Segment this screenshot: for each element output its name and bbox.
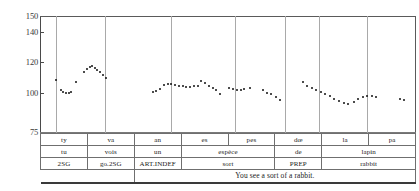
annotation-cell: va	[87, 134, 134, 146]
y-tick-label-150: 150	[4, 12, 38, 21]
annotation-cell: lapin	[322, 146, 416, 158]
segment-boundary-line	[56, 16, 57, 133]
f0-data-point	[347, 103, 349, 105]
f0-data-point	[75, 81, 77, 83]
gloss-tier: 2SGgo.2SGART.INDEFsortPREPrabbit	[41, 158, 416, 170]
annotation-cell: dœ	[275, 134, 322, 146]
segment-boundary-line	[105, 16, 106, 133]
f0-data-point	[311, 87, 313, 89]
f0-data-point	[189, 86, 191, 88]
annotation-cell: PREP	[275, 158, 322, 170]
annotation-cell: ty	[41, 134, 88, 146]
f0-data-point	[215, 89, 217, 91]
annotation-cell: ART.INDEF	[134, 158, 181, 170]
f0-data-point	[228, 87, 230, 89]
f0-data-point	[343, 102, 345, 104]
f0-data-point	[375, 96, 377, 98]
translation-text: You see a sort of a rabbit.	[134, 170, 415, 184]
f0-data-point	[266, 92, 268, 94]
translation-row: You see a sort of a rabbit.	[41, 170, 416, 184]
f0-data-point	[65, 92, 67, 94]
f0-data-point	[333, 98, 335, 100]
f0-data-point	[232, 88, 234, 90]
f0-data-point	[371, 95, 373, 97]
f0-data-point	[163, 84, 165, 86]
annotation-cell: espèce	[181, 146, 275, 158]
f0-data-point	[324, 93, 326, 95]
annotation-cell: an	[134, 134, 181, 146]
y-axis	[40, 16, 41, 133]
plot-top-border	[40, 16, 416, 17]
f0-data-point	[243, 88, 245, 90]
f0-data-point	[236, 89, 238, 91]
f0-data-point	[70, 91, 72, 93]
f0-data-point	[399, 98, 401, 100]
f0-data-point	[83, 71, 85, 73]
translation-spacer	[41, 170, 135, 184]
f0-data-point	[306, 85, 308, 87]
annotation-cell: tu	[41, 146, 88, 158]
f0-data-point	[279, 99, 281, 101]
f0-data-point	[167, 83, 169, 85]
annotation-cell: rabbit	[322, 158, 416, 170]
y-tick-label-140: 140	[4, 28, 38, 37]
f0-data-point	[302, 81, 304, 83]
f0-data-point	[62, 91, 64, 93]
annotation-cell: pes	[228, 134, 275, 146]
f0-data-point	[185, 86, 187, 88]
annotation-cell: vois	[87, 146, 134, 158]
f0-data-point	[275, 96, 277, 98]
f0-data-point	[197, 85, 199, 87]
f0-data-point	[249, 87, 251, 89]
f0-data-point	[338, 100, 340, 102]
annotation-cell: sort	[181, 158, 275, 170]
segment-boundary-line	[235, 16, 236, 133]
f0-data-point	[155, 90, 157, 92]
orthographic-tier: tuvoisunespècedelapin	[41, 146, 416, 158]
y-tick-label-120: 120	[4, 58, 38, 67]
y-tick-label-75: 75	[4, 128, 38, 137]
annotation-cell: la	[322, 134, 369, 146]
segment-boundary-line	[319, 16, 320, 133]
annotation-tier-table: tyvaanespesdœlapatuvoisunespècedelapin2S…	[40, 133, 416, 184]
f0-data-point	[200, 80, 202, 82]
f0-data-point	[353, 101, 355, 103]
f0-data-point	[329, 95, 331, 97]
segment-boundary-line	[285, 16, 286, 133]
annotation-cell: go.2SG	[87, 158, 134, 170]
segment-boundary-line	[367, 16, 368, 133]
f0-data-point	[403, 99, 405, 101]
f0-data-point	[91, 65, 93, 67]
f0-data-point	[270, 93, 272, 95]
annotation-cell: es	[181, 134, 228, 146]
f0-data-point	[102, 74, 104, 76]
f0-data-point	[208, 85, 210, 87]
f0-data-point	[99, 71, 101, 73]
f0-data-point	[86, 68, 88, 70]
annotation-cell: un	[134, 146, 181, 158]
f0-data-point	[174, 84, 176, 86]
segment-boundary-line	[171, 16, 172, 133]
f0-data-point	[212, 87, 214, 89]
annotation-cell: 2SG	[41, 158, 88, 170]
f0-data-point	[262, 89, 264, 91]
f0-data-point	[182, 85, 184, 87]
f0-data-point	[204, 82, 206, 84]
f0-data-point	[159, 88, 161, 90]
annotation-cell: de	[275, 146, 322, 158]
f0-data-point	[219, 93, 221, 95]
f0-data-point	[193, 85, 195, 87]
f0-data-point	[240, 89, 242, 91]
phonetic-tier: tyvaanespesdœlapa	[41, 134, 416, 146]
plot-right-border	[415, 16, 416, 133]
f0-data-point	[362, 96, 364, 98]
f0-data-point	[315, 89, 317, 91]
f0-data-point	[357, 98, 359, 100]
f0-data-point	[152, 91, 154, 93]
f0-contour-figure: 150 140 120 100 75 tyvaanespesdœlapatuvo…	[0, 0, 419, 191]
annotation-cell: pa	[369, 134, 416, 146]
y-tick-label-100: 100	[4, 89, 38, 98]
f0-data-point	[178, 85, 180, 87]
